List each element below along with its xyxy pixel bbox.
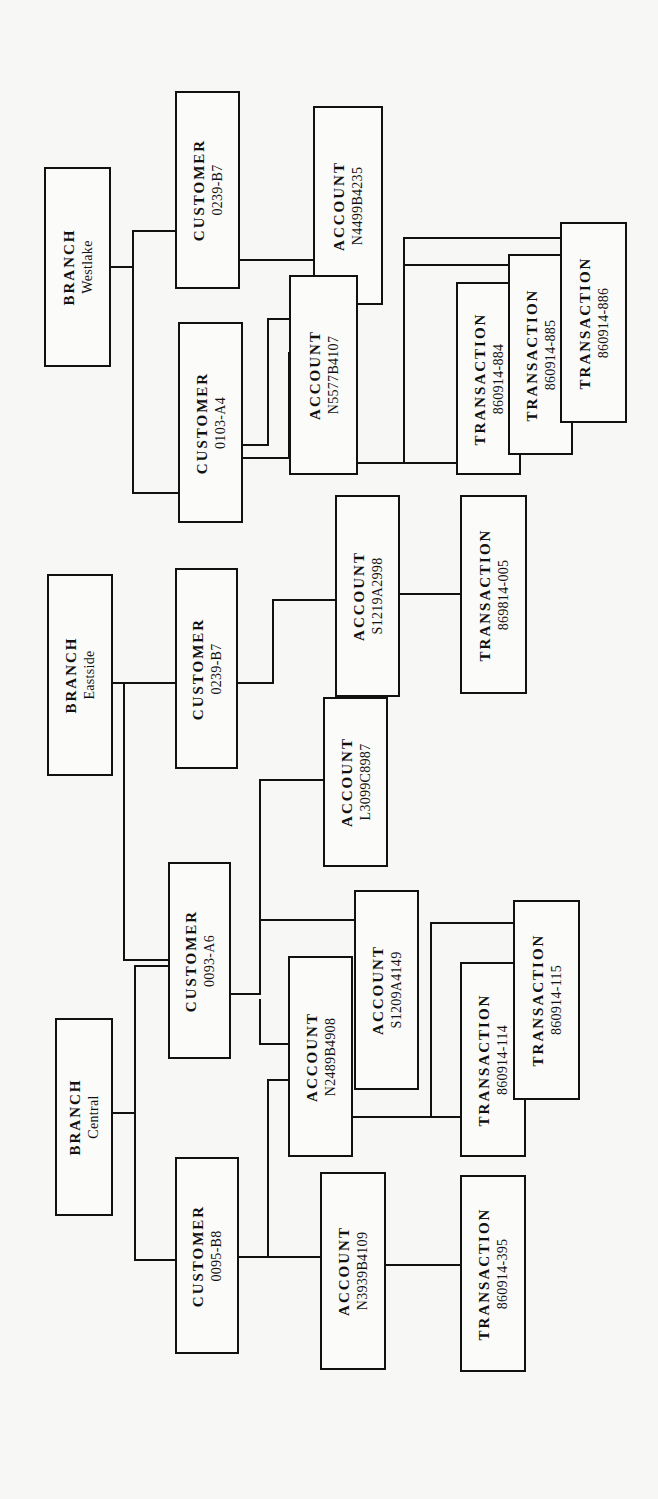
node-identifier: Central [85, 1078, 103, 1155]
connector-line [356, 462, 458, 465]
branch-node-eastside: BRANCHEastside [47, 574, 113, 776]
account-node-n5577b4107: ACCOUNTN5577B4107 [289, 275, 358, 475]
node-label: TRANSACTION860914-395 [475, 1207, 511, 1340]
connector-line [111, 1112, 137, 1115]
node-type: TRANSACTION [475, 528, 494, 661]
node-label: TRANSACTION860914-115 [528, 934, 564, 1067]
node-type: TRANSACTION [528, 934, 547, 1067]
node-type: BRANCH [59, 228, 78, 305]
node-label: CUSTOMER0239-B7 [189, 139, 225, 241]
connector-line [236, 682, 275, 685]
node-type: TRANSACTION [470, 312, 489, 445]
account-node-n3939b4109: ACCOUNTN3939B4109 [320, 1172, 386, 1370]
node-label: ACCOUNTN5577B4107 [305, 330, 341, 420]
node-identifier: 860914-395 [494, 1207, 512, 1340]
connector-line [132, 230, 135, 495]
node-label: TRANSACTION860914-886 [575, 256, 611, 389]
node-type: ACCOUNT [302, 1012, 321, 1102]
connector-line [241, 457, 291, 460]
connector-line [109, 266, 135, 269]
connector-line [403, 237, 562, 240]
connector-line [134, 965, 137, 1262]
customer-node-0239-b7: CUSTOMER0239-B7 [175, 91, 240, 289]
connector-line [430, 922, 433, 1119]
node-identifier: 0103-A4 [211, 371, 229, 473]
node-type: ACCOUNT [330, 161, 349, 251]
node-label: ACCOUNTS1219A2998 [349, 551, 385, 641]
node-identifier: N3939B4109 [354, 1226, 372, 1316]
node-identifier: 860914-115 [547, 934, 565, 1067]
node-label: ACCOUNTS1209A4149 [368, 945, 404, 1035]
node-label: TRANSACTION860914-114 [475, 993, 511, 1126]
node-type: BRANCH [62, 636, 81, 713]
node-identifier: Eastside [81, 636, 99, 713]
node-identifier: S1209A4149 [387, 945, 405, 1035]
node-label: BRANCHEastside [62, 636, 98, 713]
node-identifier: L3099C8987 [356, 737, 374, 827]
node-type: CUSTOMER [189, 139, 208, 241]
node-type: ACCOUNT [337, 737, 356, 827]
customer-node-0093-a6: CUSTOMER0093-A6 [168, 862, 231, 1059]
connector-line [384, 1264, 462, 1267]
connector-line [134, 1259, 177, 1262]
node-type: ACCOUNT [305, 330, 324, 420]
branch-node-westlake: BRANCHWestlake [44, 167, 111, 367]
transaction-node-860914-886: TRANSACTION860914-886 [560, 222, 627, 423]
node-label: CUSTOMER0093-A6 [181, 909, 217, 1011]
connector-line [267, 1079, 270, 1259]
connector-line [351, 1116, 462, 1119]
connector-line [259, 779, 262, 996]
node-label: CUSTOMER0239-B7 [188, 617, 224, 719]
node-identifier: N5577B4107 [324, 330, 342, 420]
node-identifier: N4499B4235 [349, 161, 367, 251]
node-identifier: 860914-884 [489, 312, 507, 445]
node-label: TRANSACTION860914-884 [470, 312, 506, 445]
connector-line [267, 318, 270, 447]
connector-line [229, 993, 262, 996]
connector-line [123, 959, 170, 962]
node-type: CUSTOMER [192, 371, 211, 473]
node-identifier: 0095-B8 [208, 1204, 226, 1306]
node-identifier: S1219A2998 [368, 551, 386, 641]
connector-line [134, 965, 170, 968]
connector-line [237, 1256, 270, 1259]
account-node-n2489b4908: ACCOUNTN2489B4908 [288, 956, 353, 1157]
node-type: CUSTOMER [188, 617, 207, 719]
node-identifier: 0239-B7 [207, 617, 225, 719]
node-type: ACCOUNT [368, 945, 387, 1035]
account-node-s1209a4149: ACCOUNTS1209A4149 [354, 890, 419, 1090]
node-identifier: N2489B4908 [321, 1012, 339, 1102]
hierarchy-diagram: BRANCHWestlakeCUSTOMER0239-B7CUSTOMER010… [0, 0, 658, 1499]
connector-line [259, 1043, 290, 1046]
node-type: TRANSACTION [475, 993, 494, 1126]
connector-line [267, 1079, 290, 1082]
connector-line [259, 999, 262, 1046]
connector-line [123, 682, 177, 685]
branch-node-central: BRANCHCentral [55, 1018, 113, 1216]
connector-line [267, 1256, 322, 1259]
node-identifier: 860914-886 [594, 256, 612, 389]
node-label: CUSTOMER0095-B8 [189, 1204, 225, 1306]
node-type: TRANSACTION [575, 256, 594, 389]
connector-line [241, 444, 270, 447]
node-label: ACCOUNTL3099C8987 [337, 737, 373, 827]
connector-line [272, 599, 275, 685]
node-label: ACCOUNTN4499B4235 [330, 161, 366, 251]
connector-line [238, 259, 315, 262]
node-identifier: 860914-885 [541, 288, 559, 421]
transaction-node-860914-115: TRANSACTION860914-115 [513, 900, 580, 1100]
connector-line [132, 230, 177, 233]
node-type: TRANSACTION [475, 1207, 494, 1340]
connector-line [430, 922, 515, 925]
node-type: CUSTOMER [181, 909, 200, 1011]
account-node-s1219a2998: ACCOUNTS1219A2998 [335, 495, 400, 697]
connector-line [272, 599, 337, 602]
customer-node-0103-a4: CUSTOMER0103-A4 [178, 322, 243, 523]
node-type: ACCOUNT [335, 1226, 354, 1316]
account-node-l3099c8987: ACCOUNTL3099C8987 [323, 697, 388, 867]
customer-node-0239-b7: CUSTOMER0239-B7 [175, 568, 238, 769]
node-label: ACCOUNTN2489B4908 [302, 1012, 338, 1102]
node-identifier: 869814-005 [494, 528, 512, 661]
node-type: TRANSACTION [522, 288, 541, 421]
node-type: BRANCH [66, 1078, 85, 1155]
